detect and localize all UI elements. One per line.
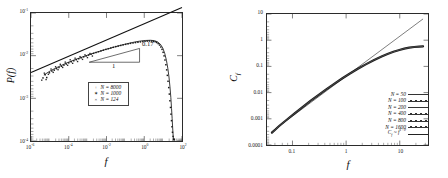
right-xtick-0: 0.1: [288, 149, 295, 154]
right-legend: N = 50 N = 100 N = 200 N = 400: [336, 91, 428, 137]
right-yaxis-title: Cf: [228, 61, 239, 95]
right-ytick-2: 0.1: [236, 63, 263, 68]
left-ytick-2: 10-3: [6, 96, 28, 101]
right-ytick-5: 0.0001: [236, 143, 263, 148]
legend-item-n400[interactable]: N = 400: [336, 111, 428, 118]
legend-key-n200-icon: [408, 105, 428, 109]
left-slope-triangle: [89, 48, 139, 62]
legend-key-n50-icon: [408, 92, 428, 96]
panel-left: 10-1 10-2 10-3 10-4 10-6 10-4 10-2 100 1…: [0, 0, 224, 178]
legend-item-n100[interactable]: N = 100: [336, 98, 428, 105]
legend-key-n1600-icon: [408, 125, 428, 129]
left-legend: + N = 8000 ✶ N = 1000 × N = 124: [88, 82, 129, 106]
left-xtick-3: 100: [141, 145, 148, 150]
legend-label-n50: N = 50: [391, 92, 406, 97]
legend-label-n124: N = 124: [101, 97, 119, 102]
legend-item-n50[interactable]: N = 50: [336, 91, 428, 98]
right-ytick-1: 1: [236, 37, 263, 42]
left-minor-ticks-y: [31, 26, 33, 139]
left-xtick-4: 102: [179, 145, 186, 150]
left-xaxis-title: f: [104, 155, 107, 167]
left-slope-run-label: 1: [112, 62, 115, 69]
right-ytick-4: 0.001: [236, 117, 263, 122]
right-ytick-0: 10: [236, 10, 263, 15]
legend-key-powerlaw-icon: [408, 132, 428, 136]
figure-root: 10-1 10-2 10-3 10-4 10-6 10-4 10-2 100 1…: [0, 0, 448, 178]
legend-label-n100: N = 100: [388, 98, 406, 103]
legend-item-n800[interactable]: N = 800: [336, 117, 428, 124]
left-ytick-3: 10-4: [6, 139, 28, 144]
right-yaxis-base: C: [228, 75, 239, 82]
legend-label-powerlaw: Cf ~ f1+θ: [388, 130, 406, 138]
left-xtick-1: 10-4: [64, 145, 72, 150]
right-xaxis-title: f: [346, 158, 349, 170]
legend-symbol-asterisk-icon: ✶: [92, 91, 101, 96]
left-slope-rise-label: 0.17: [142, 40, 154, 47]
legend-item-powerlaw[interactable]: Cf ~ f1+θ: [336, 131, 428, 138]
left-ytick-1: 10-2: [6, 53, 28, 58]
left-yaxis-title: P(f): [5, 59, 16, 93]
legend-key-n800-icon: [408, 119, 428, 123]
legend-item-n124[interactable]: × N = 124: [92, 97, 126, 103]
right-xtick-1: 1: [345, 149, 348, 154]
left-axis-ticks: [31, 13, 182, 141]
left-plot-area: [30, 12, 183, 142]
legend-symbol-cross-icon: ×: [92, 97, 101, 102]
legend-label-n200: N = 200: [388, 105, 406, 110]
right-yaxis-sub: f: [234, 73, 242, 75]
left-ytick-0: 10-1: [6, 9, 28, 14]
legend-key-n100-icon: [408, 99, 428, 103]
legend-item-n1600[interactable]: N = 1600: [336, 124, 428, 131]
legend-item-n200[interactable]: N = 200: [336, 104, 428, 111]
legend-key-n400-icon: [408, 112, 428, 116]
left-xtick-2: 10-2: [102, 145, 110, 150]
right-ytick-3: 0.01: [236, 90, 263, 95]
left-plot-svg: [31, 13, 182, 141]
right-xtick-2: 10: [398, 149, 403, 154]
panel-right: 10 1 0.1 0.01 0.001 0.0001 0.1 1 10 f Cf: [224, 0, 448, 178]
left-xtick-0: 10-6: [26, 145, 34, 150]
legend-label-n800: N = 800: [388, 118, 406, 123]
legend-symbol-plus-icon: +: [92, 85, 101, 90]
left-minor-ticks: [37, 139, 182, 141]
legend-label-n400: N = 400: [388, 111, 406, 116]
